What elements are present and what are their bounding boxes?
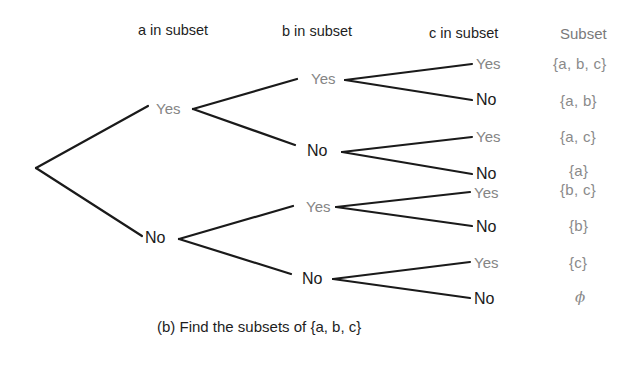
branch-a-no-b-yes (179, 206, 293, 239)
node-b-no-1: No (307, 143, 327, 159)
subset-abc: {a, b, c} (553, 56, 607, 71)
subset-a: {a} (569, 163, 588, 178)
node-b-yes-1: Yes (311, 71, 335, 86)
node-a-yes: Yes (156, 101, 180, 116)
branch-leaf-6 (336, 207, 472, 226)
node-a-no: No (145, 230, 165, 246)
branch-root-yes (36, 106, 148, 168)
leaf-c-no-4: No (474, 291, 494, 307)
branch-leaf-1 (345, 64, 472, 80)
subset-c: {c} (569, 255, 587, 270)
branch-leaf-8 (333, 279, 470, 298)
leaf-c-yes-2: Yes (476, 129, 500, 144)
node-b-yes-2: Yes (306, 199, 330, 214)
branch-leaf-2 (345, 80, 472, 100)
subset-ac: {a, c} (560, 129, 596, 144)
leaf-c-yes-1: Yes (476, 56, 500, 71)
tree-branches (0, 0, 636, 366)
branch-leaf-7 (333, 262, 470, 279)
node-b-no-2: No (302, 271, 322, 287)
header-c-in-subset: c in subset (429, 26, 498, 41)
branch-a-no-b-no (179, 239, 291, 274)
branch-a-yes-b-yes (193, 79, 297, 109)
branch-root-no (36, 168, 142, 236)
subset-bc: {b, c} (560, 182, 596, 197)
leaf-c-no-2: No (476, 166, 496, 182)
branch-a-yes-b-no (193, 109, 295, 145)
branch-leaf-3 (342, 137, 472, 152)
leaf-c-no-1: No (476, 92, 496, 108)
subset-b: {b} (569, 218, 588, 233)
subset-ab: {a, b} (560, 93, 597, 108)
header-a-in-subset: a in subset (138, 23, 208, 38)
leaf-c-yes-4: Yes (474, 255, 498, 270)
branch-leaf-4 (342, 152, 472, 174)
leaf-c-no-3: No (476, 219, 496, 235)
leaf-c-yes-3: Yes (474, 185, 498, 200)
branch-leaf-5 (336, 192, 470, 207)
subset-tree-diagram: a in subset b in subset c in subset Subs… (0, 0, 636, 366)
subset-empty-set: ϕ (575, 290, 585, 305)
figure-caption: (b) Find the subsets of {a, b, c} (157, 319, 361, 334)
header-subset: Subset (560, 26, 607, 41)
header-b-in-subset: b in subset (282, 24, 352, 39)
